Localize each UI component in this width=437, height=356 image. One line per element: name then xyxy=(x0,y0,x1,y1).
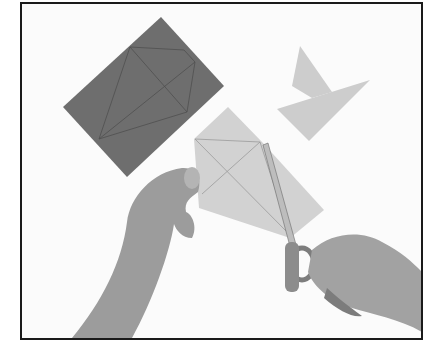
right-hand xyxy=(308,234,421,332)
left-hand xyxy=(72,167,200,338)
cut-paper-pieces xyxy=(277,46,370,141)
photo-scene xyxy=(22,4,421,338)
photo-frame xyxy=(20,2,423,340)
